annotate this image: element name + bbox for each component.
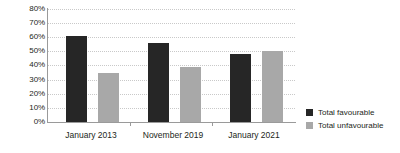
y-tick-label: 20%	[3, 90, 45, 98]
plot-area	[48, 9, 295, 122]
x-axis-line	[47, 122, 296, 123]
legend-item-total-unfavourable: Total unfavourable	[306, 120, 400, 131]
x-axis-category-label: November 2019	[132, 131, 214, 140]
y-tick-label: 80%	[3, 5, 45, 13]
y-tick-label: 40%	[3, 61, 45, 69]
bar-group-january-2013	[66, 9, 119, 122]
bar-total-unfavourable	[180, 67, 201, 122]
x-axis-tick	[212, 123, 213, 126]
bar-total-favourable	[230, 54, 251, 122]
bar-group-january-2021	[230, 9, 283, 122]
y-tick-label: 30%	[3, 76, 45, 84]
bar-total-unfavourable	[98, 73, 119, 122]
y-axis-labels: 80% 70% 60% 50% 40% 30% 20% 10% 0%	[0, 0, 45, 153]
bar-total-unfavourable	[262, 51, 283, 122]
bar-total-favourable	[66, 36, 87, 122]
x-axis-tick	[130, 123, 131, 126]
y-tick-label: 60%	[3, 33, 45, 41]
chart-legend: Total favourable Total unfavourable	[306, 107, 400, 133]
x-axis-category-label: January 2013	[52, 131, 130, 140]
legend-item-total-favourable: Total favourable	[306, 107, 400, 118]
legend-label: Total unfavourable	[318, 121, 383, 130]
y-tick-label: 0%	[3, 118, 45, 126]
y-tick-label: 70%	[3, 19, 45, 27]
bar-group-november-2019	[148, 9, 201, 122]
y-tick-label: 50%	[3, 47, 45, 55]
legend-label: Total favourable	[318, 108, 374, 117]
x-axis-category-label: January 2021	[214, 131, 294, 140]
bar-chart: 80% 70% 60% 50% 40% 30% 20% 10% 0%	[0, 0, 400, 153]
y-tick-label: 10%	[3, 104, 45, 112]
legend-swatch-icon	[306, 122, 313, 129]
legend-swatch-icon	[306, 109, 313, 116]
bar-total-favourable	[148, 43, 169, 122]
